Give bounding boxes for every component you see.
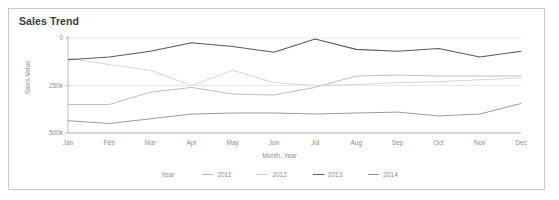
legend-item-2011[interactable]: 2011 — [202, 171, 231, 178]
series-lines — [68, 39, 521, 124]
axis-lines — [65, 36, 521, 133]
x-tick-label: Sep — [377, 139, 417, 146]
x-tick-label: Jul — [295, 139, 335, 146]
legend-item-2013[interactable]: 2013 — [313, 171, 342, 178]
x-tick-label: May — [213, 139, 253, 146]
x-tick-label: Mar — [130, 139, 170, 146]
chart-canvas — [0, 0, 559, 200]
x-tick-label: Oct — [419, 139, 459, 146]
x-tick-label: Jun — [254, 139, 294, 146]
x-tick-label: Dec — [501, 139, 541, 146]
legend-item-label: 2013 — [328, 171, 342, 178]
legend-item-label: 2014 — [383, 171, 397, 178]
y-axis-title: Sales Value — [24, 43, 31, 113]
x-tick-label: Feb — [89, 139, 129, 146]
series-line-2014 — [68, 104, 521, 124]
x-tick-label: Nov — [460, 139, 500, 146]
series-line-2011 — [68, 75, 521, 104]
legend-swatch-icon — [368, 174, 379, 175]
series-line-2013 — [68, 39, 521, 60]
legend-item-label: 2011 — [217, 171, 231, 178]
y-tick-label: 250k — [29, 82, 63, 89]
legend-swatch-icon — [313, 174, 324, 175]
legend-item-2014[interactable]: 2014 — [368, 171, 397, 178]
legend-swatch-icon — [202, 174, 213, 175]
y-tick-label: 0 — [29, 34, 63, 41]
x-tick-label: Apr — [172, 139, 212, 146]
gridlines — [68, 38, 521, 133]
x-axis-title: Month, Year — [0, 152, 559, 159]
x-tick-label: Jan — [48, 139, 88, 146]
series-line-2012 — [68, 58, 521, 86]
y-tick-label: 500k — [29, 129, 63, 136]
legend-item-label: 2012 — [272, 171, 286, 178]
legend-title: Year — [161, 171, 174, 178]
legend-item-2012[interactable]: 2012 — [257, 171, 286, 178]
x-tick-label: Aug — [336, 139, 376, 146]
legend-swatch-icon — [257, 174, 268, 175]
chart-legend: Year 2011201220132014 — [0, 171, 559, 178]
line-chart-svg — [0, 0, 559, 200]
